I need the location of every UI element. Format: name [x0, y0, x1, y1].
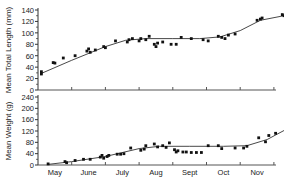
data-point: [156, 146, 159, 149]
data-point: [155, 45, 158, 48]
data-point: [246, 145, 249, 148]
data-point: [175, 43, 178, 46]
y-tick-label: 120: [21, 17, 34, 26]
data-point: [123, 152, 126, 155]
data-point: [217, 35, 220, 38]
data-point: [220, 147, 223, 150]
data-point: [74, 159, 77, 162]
data-point: [207, 40, 210, 43]
data-point: [114, 40, 117, 43]
month-label-june: June: [80, 168, 96, 177]
y-tick-label: 60: [26, 52, 34, 61]
data-point: [62, 57, 65, 60]
data-point: [264, 140, 267, 143]
month-label-aug: Aug: [149, 168, 162, 177]
y-tick-label: 240: [21, 93, 34, 102]
data-point: [65, 161, 68, 164]
data-point: [185, 151, 188, 154]
month-label-july: July: [116, 168, 130, 177]
data-point: [170, 43, 173, 46]
data-point: [227, 34, 230, 37]
month-label-oct: Oct: [218, 168, 231, 177]
data-point: [94, 49, 97, 52]
y-tick-label: 40: [26, 149, 34, 158]
data-point: [256, 19, 259, 22]
data-point: [148, 35, 151, 38]
y-tick-label: 0: [30, 161, 34, 170]
data-point: [156, 42, 159, 45]
weight-panel: 04080120160200240Mean Weight (g): [4, 93, 284, 170]
length-y-axis-title: Mean Total Length (mm): [4, 6, 13, 93]
data-point: [217, 144, 220, 147]
data-point: [257, 136, 260, 139]
y-tick-label: 120: [21, 127, 34, 136]
data-point: [129, 147, 132, 150]
y-tick-label: 40: [26, 63, 34, 72]
y-tick-label: 160: [21, 115, 34, 124]
data-point: [74, 54, 77, 57]
data-point: [165, 146, 168, 149]
y-tick-label: 80: [26, 40, 34, 49]
data-point: [153, 143, 156, 146]
data-point: [267, 134, 270, 137]
y-tick-label: 140: [21, 6, 34, 15]
data-point: [144, 38, 147, 41]
data-point: [261, 17, 264, 20]
chart-canvas: 020406080100120140Mean Total Length (mm)…: [0, 0, 284, 185]
month-axis-labels: MayJuneJulyAugSeptOctNov: [48, 168, 264, 177]
data-point: [104, 46, 107, 49]
data-point: [190, 151, 193, 154]
data-point: [202, 38, 205, 41]
weight-y-axis-title: Mean Weight (g): [4, 101, 13, 160]
data-point: [139, 37, 142, 40]
month-label-sept: Sept: [182, 168, 198, 177]
data-point: [195, 151, 198, 154]
data-point: [143, 148, 146, 151]
data-point: [234, 147, 237, 150]
data-point: [82, 158, 85, 161]
data-point: [54, 62, 57, 65]
data-point: [190, 37, 193, 40]
y-tick-label: 80: [26, 138, 34, 147]
y-tick-label: 20: [26, 74, 34, 83]
length-panel: 020406080100120140Mean Total Length (mm): [4, 6, 284, 95]
weight-fit-curve: [48, 104, 284, 165]
data-point: [116, 153, 119, 156]
data-point: [131, 37, 134, 40]
data-point: [182, 151, 185, 154]
data-point: [161, 41, 164, 44]
y-tick-label: 200: [21, 104, 34, 113]
data-point: [107, 154, 110, 157]
data-point: [161, 144, 164, 147]
data-point: [283, 14, 284, 17]
data-point: [224, 37, 227, 40]
data-point: [139, 149, 142, 152]
growth-chart-figure: 020406080100120140Mean Total Length (mm)…: [0, 0, 284, 185]
data-point: [119, 153, 122, 156]
data-point: [180, 36, 183, 39]
length-fit-curve: [41, 16, 284, 74]
month-label-nov: Nov: [250, 168, 264, 177]
data-point: [89, 51, 92, 54]
data-point: [200, 151, 203, 154]
data-point: [220, 36, 223, 39]
data-point: [87, 48, 90, 51]
data-point: [102, 157, 105, 160]
month-label-may: May: [48, 168, 62, 177]
data-point: [47, 163, 50, 166]
data-point: [101, 154, 104, 157]
data-point: [207, 144, 210, 147]
data-point: [128, 38, 131, 41]
y-tick-label: 100: [21, 29, 34, 38]
data-point: [168, 142, 171, 145]
data-point: [144, 144, 147, 147]
data-point: [89, 158, 92, 161]
data-point: [242, 147, 245, 150]
data-point: [177, 149, 180, 152]
data-point: [274, 132, 277, 135]
data-point: [234, 33, 237, 36]
data-point: [40, 70, 43, 73]
